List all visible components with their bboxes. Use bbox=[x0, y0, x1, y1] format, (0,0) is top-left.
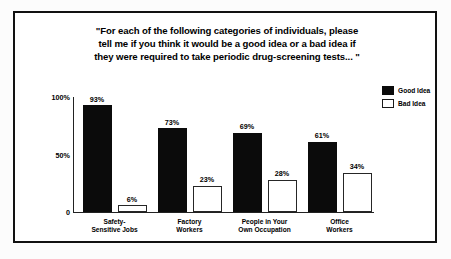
bars-row: 73% 23% bbox=[155, 97, 224, 212]
category-label-line-1: Office bbox=[305, 218, 374, 226]
legend-swatch-bad-idea bbox=[382, 99, 394, 108]
legend-label-bad-idea: Bad Idea bbox=[398, 100, 425, 107]
chart-title: "For each of the following categories of… bbox=[31, 24, 423, 64]
bar-wrap-good: 69% bbox=[233, 97, 262, 212]
bar-good-idea bbox=[233, 133, 262, 212]
bar-wrap-bad: 28% bbox=[268, 97, 297, 212]
category-label-line-1: Factory bbox=[155, 218, 224, 226]
bar-group-people-in-your-own-occupation: 69% 28% People in Your Own Occupation bbox=[230, 97, 299, 212]
bar-bad-idea bbox=[118, 205, 147, 212]
chart-title-line-3: they were required to take periodic drug… bbox=[31, 50, 423, 63]
bar-value-good: 73% bbox=[165, 118, 179, 127]
bar-wrap-good: 61% bbox=[308, 97, 337, 212]
category-label-line-1: Safety- bbox=[80, 218, 149, 226]
category-label-line-2: Own Occupation bbox=[230, 226, 299, 234]
bars-row: 61% 34% bbox=[305, 97, 374, 212]
chart-title-line-1: "For each of the following categories of… bbox=[31, 24, 423, 37]
legend-item-bad-idea: Bad Idea bbox=[382, 99, 430, 108]
chart-title-line-2: tell me if you think it would be a good … bbox=[31, 37, 423, 50]
bar-wrap-good: 93% bbox=[83, 97, 112, 212]
bar-wrap-bad: 23% bbox=[193, 97, 222, 212]
chart-page: "For each of the following categories of… bbox=[0, 0, 451, 259]
bar-bad-idea bbox=[193, 186, 222, 212]
plot-area: 100% 50% 0 93% 6% Safety- Sensitive Job bbox=[73, 97, 374, 213]
bar-group-office-workers: 61% 34% Office Workers bbox=[305, 97, 374, 212]
bar-bad-idea bbox=[268, 180, 297, 212]
bar-value-good: 93% bbox=[90, 95, 104, 104]
bar-value-good: 61% bbox=[315, 131, 329, 140]
bar-wrap-bad: 34% bbox=[343, 97, 372, 212]
bars-row: 69% 28% bbox=[230, 97, 299, 212]
bar-value-bad: 23% bbox=[200, 175, 214, 184]
chart-legend: Good Idea Bad Idea bbox=[382, 86, 430, 108]
bar-group-factory-workers: 73% 23% Factory Workers bbox=[155, 97, 224, 212]
category-label-office-workers: Office Workers bbox=[305, 218, 374, 235]
category-label-people-in-your-own-occupation: People in Your Own Occupation bbox=[230, 218, 299, 235]
category-label-factory-workers: Factory Workers bbox=[155, 218, 224, 235]
legend-swatch-good-idea bbox=[382, 86, 394, 95]
category-label-line-2: Workers bbox=[305, 226, 374, 234]
bar-value-bad: 28% bbox=[275, 169, 289, 178]
bar-wrap-good: 73% bbox=[158, 97, 187, 212]
y-axis-tick-100: 100% bbox=[52, 93, 70, 102]
category-label-safety-sensitive-jobs: Safety- Sensitive Jobs bbox=[80, 218, 149, 235]
bar-wrap-bad: 6% bbox=[118, 97, 147, 212]
bars-row: 93% 6% bbox=[80, 97, 149, 212]
bar-good-idea bbox=[83, 105, 112, 212]
chart-frame: "For each of the following categories of… bbox=[13, 11, 437, 243]
category-label-line-2: Sensitive Jobs bbox=[80, 226, 149, 234]
bar-good-idea bbox=[308, 142, 337, 212]
category-label-line-2: Workers bbox=[155, 226, 224, 234]
bar-bad-idea bbox=[343, 173, 372, 212]
y-axis-tick-50: 50% bbox=[56, 150, 70, 159]
category-label-line-1: People in Your bbox=[230, 218, 299, 226]
bar-value-bad: 6% bbox=[127, 195, 137, 204]
bar-value-bad: 34% bbox=[350, 162, 364, 171]
y-axis-tick-0: 0 bbox=[66, 208, 70, 217]
legend-item-good-idea: Good Idea bbox=[382, 86, 430, 95]
bar-good-idea bbox=[158, 128, 187, 212]
bar-value-good: 69% bbox=[240, 122, 254, 131]
legend-label-good-idea: Good Idea bbox=[398, 87, 430, 94]
bar-group-safety-sensitive-jobs: 93% 6% Safety- Sensitive Jobs bbox=[80, 97, 149, 212]
